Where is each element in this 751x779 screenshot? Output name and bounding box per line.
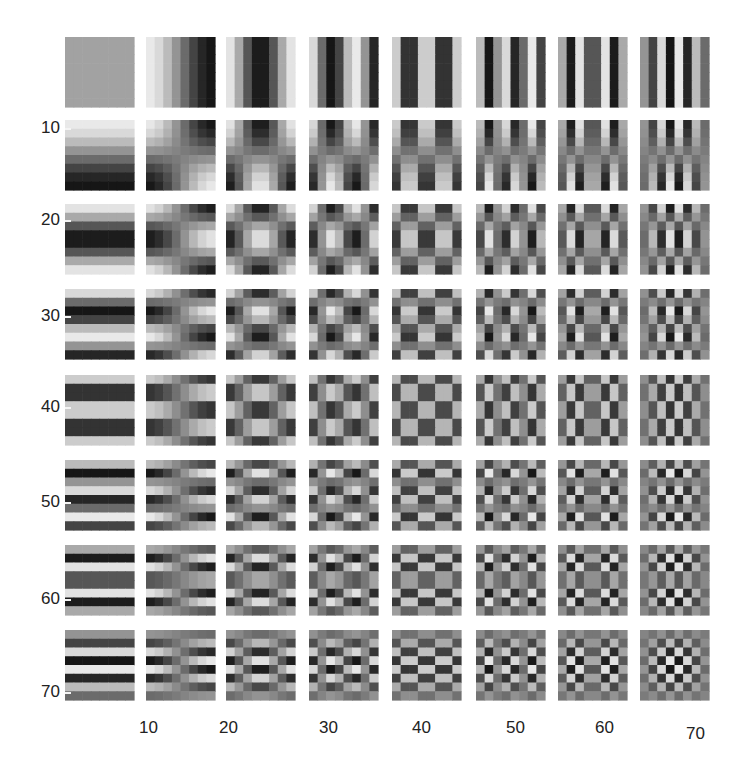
basis-tile: [558, 289, 628, 360]
basis-tile: [476, 204, 546, 275]
basis-tile: [309, 204, 379, 275]
x-tick-label: 40: [412, 718, 431, 738]
basis-tile: [309, 545, 379, 616]
y-tick-label: 70: [10, 682, 60, 702]
basis-tile: [476, 630, 546, 701]
basis-tile: [640, 630, 710, 701]
basis-tile: [65, 375, 135, 446]
x-tick-label: 70: [686, 724, 705, 744]
basis-tile: [309, 460, 379, 531]
basis-tile: [226, 460, 296, 531]
basis-tile: [392, 375, 462, 446]
y-tick-label: 30: [10, 306, 60, 326]
y-tick-mark: [65, 316, 71, 318]
basis-tile: [309, 37, 379, 108]
basis-tile: [146, 460, 216, 531]
basis-tile: [558, 37, 628, 108]
basis-tile: [146, 630, 216, 701]
basis-tile: [476, 120, 546, 191]
basis-tile: [392, 545, 462, 616]
basis-tile: [146, 375, 216, 446]
basis-tile: [226, 204, 296, 275]
basis-tile: [476, 375, 546, 446]
basis-tile: [558, 120, 628, 191]
basis-tile: [65, 289, 135, 360]
basis-tile: [640, 460, 710, 531]
basis-tile: [640, 204, 710, 275]
basis-tile: [226, 630, 296, 701]
basis-tile: [146, 204, 216, 275]
basis-tile: [392, 460, 462, 531]
basis-tile: [476, 289, 546, 360]
x-tick-label: 10: [139, 718, 158, 738]
x-tick-label: 20: [219, 718, 238, 738]
basis-tile: [146, 37, 216, 108]
basis-tile: [392, 204, 462, 275]
y-tick-mark: [65, 128, 71, 130]
y-tick-label: 10: [10, 118, 60, 138]
basis-tile: [640, 545, 710, 616]
basis-tile: [226, 37, 296, 108]
y-tick-label: 40: [10, 397, 60, 417]
basis-tile: [226, 545, 296, 616]
basis-tile: [476, 460, 546, 531]
basis-grid: [0, 0, 751, 779]
basis-tile: [476, 37, 546, 108]
y-tick-label: 60: [10, 589, 60, 609]
y-tick-label: 50: [10, 492, 60, 512]
dct-basis-figure: [0, 0, 751, 779]
basis-tile: [640, 120, 710, 191]
basis-tile: [65, 460, 135, 531]
basis-tile: [309, 120, 379, 191]
y-tick-label: 20: [10, 210, 60, 230]
basis-tile: [392, 289, 462, 360]
basis-tile: [65, 120, 135, 191]
basis-tile: [640, 375, 710, 446]
basis-tile: [476, 545, 546, 616]
basis-tile: [309, 375, 379, 446]
basis-tile: [309, 289, 379, 360]
basis-tile: [392, 37, 462, 108]
basis-tile: [226, 289, 296, 360]
x-tick-label: 60: [595, 718, 614, 738]
y-tick-mark: [65, 407, 71, 409]
basis-tile: [226, 120, 296, 191]
basis-tile: [65, 204, 135, 275]
basis-tile: [226, 375, 296, 446]
y-tick-mark: [65, 692, 71, 694]
basis-tile: [640, 37, 710, 108]
basis-tile: [558, 630, 628, 701]
y-tick-mark: [65, 220, 71, 222]
basis-tile: [640, 289, 710, 360]
basis-tile: [392, 120, 462, 191]
x-tick-label: 30: [319, 718, 338, 738]
y-tick-mark: [65, 502, 71, 504]
basis-tile: [65, 37, 135, 108]
y-tick-mark: [65, 599, 71, 601]
basis-tile: [558, 460, 628, 531]
basis-tile: [558, 545, 628, 616]
basis-tile: [65, 630, 135, 701]
basis-tile: [309, 630, 379, 701]
basis-tile: [65, 545, 135, 616]
x-tick-label: 50: [506, 718, 525, 738]
basis-tile: [558, 204, 628, 275]
basis-tile: [392, 630, 462, 701]
basis-tile: [146, 120, 216, 191]
basis-tile: [146, 545, 216, 616]
basis-tile: [146, 289, 216, 360]
basis-tile: [558, 375, 628, 446]
